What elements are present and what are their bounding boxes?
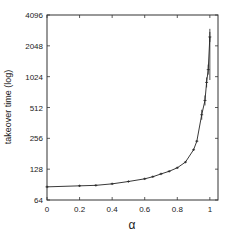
x-tick-label: 1 <box>208 205 213 214</box>
chart: 64128256512102420484096 00.20.40.60.81 α… <box>0 0 232 239</box>
x-tick-label: 0.8 <box>172 205 184 214</box>
y-axis-ticks: 64128256512102420484096 <box>25 11 218 205</box>
y-tick-label: 2048 <box>25 42 43 51</box>
data-series <box>46 29 212 188</box>
x-tick-label: 0.4 <box>107 205 119 214</box>
x-axis-ticks: 00.20.40.60.81 <box>45 15 213 214</box>
y-tick-label: 512 <box>30 104 44 113</box>
y-tick-label: 4096 <box>25 11 43 20</box>
x-tick-label: 0.2 <box>74 205 86 214</box>
x-axis-label: α <box>129 218 136 232</box>
y-tick-label: 128 <box>30 165 44 174</box>
plot-frame <box>47 15 218 200</box>
y-axis-label: takeover time (log) <box>3 70 13 145</box>
y-tick-label: 1024 <box>25 73 43 82</box>
y-tick-label: 64 <box>34 196 43 205</box>
x-tick-label: 0.6 <box>139 205 151 214</box>
y-tick-label: 256 <box>30 134 44 143</box>
x-tick-label: 0 <box>45 205 50 214</box>
